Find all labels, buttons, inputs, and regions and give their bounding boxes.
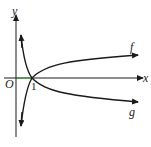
origin-label: O — [5, 77, 14, 91]
curve-f — [21, 55, 138, 126]
curve-g — [21, 35, 138, 102]
x-axis-label: x — [142, 71, 149, 85]
tick-label-1: 1 — [31, 80, 37, 92]
log-functions-diagram: y x O 1 f g — [0, 0, 151, 147]
y-axis-label: y — [11, 4, 18, 18]
curve-f-label: f — [130, 40, 135, 54]
curve-g-label: g — [129, 105, 135, 119]
curve-f-left-arrow — [21, 112, 22, 126]
curve-g-left-arrow — [21, 35, 22, 48]
